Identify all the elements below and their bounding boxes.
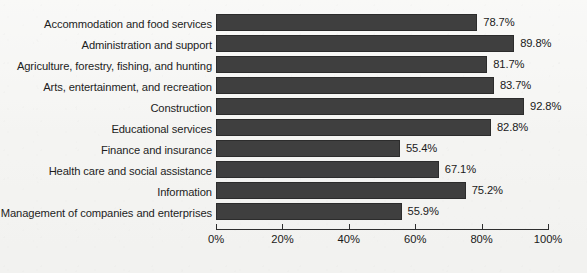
bar-track — [216, 77, 494, 94]
x-axis-tick-label: 60% — [385, 233, 445, 245]
horizontal-bar-chart: Accommodation and food services78.7%Admi… — [0, 0, 587, 273]
bar-track — [216, 98, 524, 115]
bar[interactable] — [216, 14, 477, 31]
category-label: Management of companies and enterprises — [0, 202, 212, 223]
bar[interactable] — [216, 77, 494, 94]
bar-track — [216, 161, 439, 178]
bar-track — [216, 35, 514, 52]
bar-row: Agriculture, forestry, fishing, and hunt… — [0, 55, 587, 76]
category-label: Information — [0, 181, 212, 202]
x-axis-tick-label: 40% — [319, 233, 379, 245]
bar-row: Arts, entertainment, and recreation83.7% — [0, 76, 587, 97]
bar-value-label: 92.8% — [530, 98, 561, 115]
bar-value-label: 75.2% — [472, 182, 503, 199]
bar-value-label: 78.7% — [483, 14, 514, 31]
x-axis-tick — [216, 224, 217, 230]
bar-value-label: 55.9% — [408, 203, 439, 220]
bar[interactable] — [216, 98, 524, 115]
bar-track — [216, 182, 466, 199]
x-axis-tick-label: 100% — [518, 233, 578, 245]
x-axis-tick — [282, 224, 283, 230]
bar-value-label: 55.4% — [406, 140, 437, 157]
category-label: Arts, entertainment, and recreation — [0, 76, 212, 97]
x-axis-line — [216, 229, 548, 230]
bar[interactable] — [216, 182, 466, 199]
bar-value-label: 83.7% — [500, 77, 531, 94]
bar-row: Finance and insurance55.4% — [0, 139, 587, 160]
bar-row: Construction92.8% — [0, 97, 587, 118]
bar-track — [216, 56, 487, 73]
bar-track — [216, 140, 400, 157]
category-label: Administration and support — [0, 34, 212, 55]
x-axis-tick — [482, 224, 483, 230]
bar[interactable] — [216, 56, 487, 73]
category-label: Finance and insurance — [0, 139, 212, 160]
x-axis-tick-label: 20% — [252, 233, 312, 245]
category-label: Health care and social assistance — [0, 160, 212, 181]
category-label: Educational services — [0, 118, 212, 139]
x-axis-tick-label: 80% — [452, 233, 512, 245]
x-axis-tick — [415, 224, 416, 230]
x-axis-tick — [349, 224, 350, 230]
bar[interactable] — [216, 140, 400, 157]
bar-value-label: 82.8% — [497, 119, 528, 136]
bar-value-label: 67.1% — [445, 161, 476, 178]
category-label: Agriculture, forestry, fishing, and hunt… — [0, 55, 212, 76]
bar-row: Accommodation and food services78.7% — [0, 13, 587, 34]
bar-row: Administration and support89.8% — [0, 34, 587, 55]
bar[interactable] — [216, 161, 439, 178]
x-axis-tick-label: 0% — [186, 233, 246, 245]
bar-track — [216, 119, 491, 136]
bar-value-label: 81.7% — [493, 56, 524, 73]
bar-track — [216, 203, 402, 220]
bar-track — [216, 14, 477, 31]
x-axis-tick — [548, 224, 549, 230]
bar[interactable] — [216, 119, 491, 136]
bar-row: Educational services82.8% — [0, 118, 587, 139]
category-label: Construction — [0, 97, 212, 118]
bar-value-label: 89.8% — [520, 35, 551, 52]
category-label: Accommodation and food services — [0, 13, 212, 34]
bar-row: Health care and social assistance67.1% — [0, 160, 587, 181]
bar-row: Information75.2% — [0, 181, 587, 202]
bar[interactable] — [216, 35, 514, 52]
bar-row: Management of companies and enterprises5… — [0, 202, 587, 223]
bar[interactable] — [216, 203, 402, 220]
